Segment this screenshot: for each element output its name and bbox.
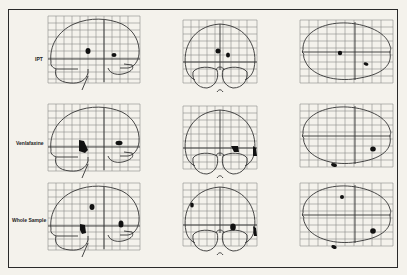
row-label-ipt: IPT [35, 56, 43, 62]
activation-blob [119, 221, 124, 228]
activation-blob [116, 141, 123, 145]
whole-sample-sagittal-view [48, 183, 140, 258]
activation-blob [253, 226, 257, 236]
venlafaxine-coronal-view [183, 106, 257, 178]
ipt-sagittal-view [48, 16, 140, 91]
activation-blob [253, 146, 257, 156]
activation-blob [370, 147, 376, 152]
activation-blob [79, 140, 88, 153]
activation-blob [86, 48, 91, 54]
activation-blob [216, 49, 221, 54]
activation-blob [370, 228, 376, 234]
ipt-coronal-view [183, 20, 257, 92]
whole-sample-coronal-view [183, 183, 257, 255]
activation-blob [231, 146, 239, 152]
activation-blob [230, 224, 236, 231]
row-label-venlafaxine: Venlafaxine [16, 140, 44, 146]
activation-blob [80, 224, 86, 234]
activation-blob [226, 53, 230, 58]
whole-sample-axial-view [300, 183, 393, 251]
row-label-whole-sample: Whole Sample [12, 217, 46, 223]
activation-blob [112, 53, 117, 57]
activation-blob [190, 203, 194, 208]
ipt-axial-view [300, 20, 393, 83]
venlafaxine-sagittal-view [48, 104, 140, 179]
activation-blob [363, 62, 369, 67]
activation-blob [90, 204, 95, 210]
activation-blob [340, 195, 344, 199]
venlafaxine-axial-view [300, 104, 393, 172]
activation-blob [338, 51, 342, 55]
